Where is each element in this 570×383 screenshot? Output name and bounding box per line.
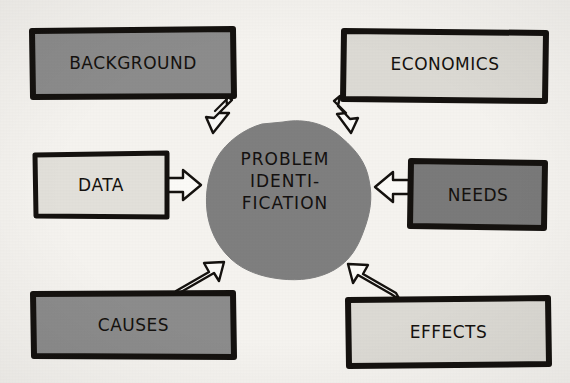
box-economics[interactable]	[343, 31, 546, 101]
blob-shape	[206, 121, 370, 280]
box-effects[interactable]	[348, 298, 549, 366]
box-effects-shape	[348, 298, 549, 366]
box-needs-shape	[410, 161, 545, 228]
box-background-shape	[32, 29, 234, 97]
box-economics-shape	[343, 31, 546, 101]
problem-identification-diagram	[0, 0, 570, 383]
box-data[interactable]	[35, 153, 167, 217]
box-data-shape	[35, 153, 167, 217]
box-causes[interactable]	[33, 293, 234, 357]
box-background[interactable]	[32, 29, 234, 97]
diagram-canvas: BACKGROUND ECONOMICS DATA NEEDS CAUSES E…	[0, 0, 570, 383]
box-causes-shape	[33, 293, 234, 357]
center-blob[interactable]	[206, 121, 370, 280]
box-needs[interactable]	[410, 161, 545, 228]
